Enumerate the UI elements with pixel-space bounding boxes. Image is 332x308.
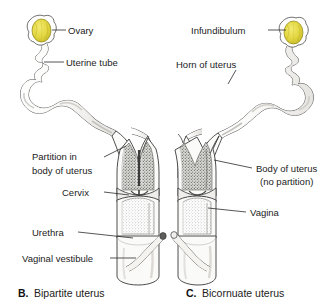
- label-horn-of-uterus: Horn of uterus: [176, 59, 236, 70]
- caption-text-b: Bipartite uterus: [34, 287, 105, 299]
- label-infundibulum: Infundibulum: [191, 25, 245, 36]
- caption-letter-c: C.: [186, 287, 197, 299]
- urethral-orifice: [160, 233, 166, 240]
- uterus-body-c: [175, 133, 222, 196]
- label-uterine-tube: Uterine tube: [66, 57, 118, 68]
- label-vaginal-vestibule: Vaginal vestibule: [22, 253, 93, 264]
- urethral-orifice-c: [171, 232, 177, 239]
- anatomy-figure: Ovary Uterine tube Partition in body of …: [0, 0, 332, 308]
- label-body-line1: Body of uterus: [256, 163, 318, 174]
- panel-c-illustration: Infundibulum Horn of uterus Body of uter…: [171, 17, 318, 299]
- leader-horn-of-uterus: [228, 70, 236, 84]
- leader-body-of-uterus: [214, 160, 252, 168]
- caption-text-c: Bicornuate uterus: [202, 287, 284, 299]
- ovary-right: [279, 17, 308, 47]
- label-body-line2: (no partition): [260, 176, 313, 187]
- label-ovary: Ovary: [68, 25, 94, 36]
- uterus-body-b: [112, 131, 159, 196]
- label-partition-line2: body of uterus: [32, 165, 92, 176]
- label-cervix: Cervix: [62, 187, 89, 198]
- panel-b-illustration: Ovary Uterine tube Partition in body of …: [18, 15, 166, 299]
- label-vagina: Vagina: [250, 207, 280, 218]
- ovary-left: [27, 15, 56, 45]
- label-urethra: Urethra: [32, 227, 64, 238]
- figure-canvas: Ovary Uterine tube Partition in body of …: [0, 0, 332, 308]
- caption-letter-b: B.: [18, 287, 29, 299]
- label-partition-line1: Partition in: [32, 151, 77, 162]
- vagina-c: [178, 196, 216, 238]
- vagina-b: [117, 196, 159, 238]
